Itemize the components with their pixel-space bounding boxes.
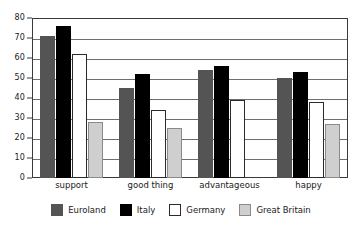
y-tick-label: 0 [20,174,25,182]
bar-chart: 01020304050607080 supportgood thingadvan… [0,0,362,228]
y-axis: 01020304050607080 [0,18,32,178]
bar-italy [135,74,150,178]
legend-label: Italy [137,206,155,215]
bar-italy [293,72,308,178]
legend-swatch-icon [120,204,132,216]
y-tick-label: 30 [14,114,25,122]
y-tick-label: 80 [14,14,25,22]
legend-item: Italy [120,204,155,216]
legend-label: Germany [186,206,225,215]
x-tick-label: good thing [128,180,174,190]
bar-euroland [198,70,213,178]
bar-germany [151,110,166,178]
legend-item: Euroland [51,204,106,216]
legend-label: Euroland [68,206,106,215]
legend: EurolandItalyGermanyGreat Britain [0,200,362,220]
legend-item: Germany [169,204,225,216]
bar-group [190,18,269,178]
bar-germany [72,54,87,178]
y-tick-label: 50 [14,74,25,82]
bar-germany [309,102,324,178]
bar-italy [214,66,229,178]
bar-great-britain [325,124,340,178]
bar-euroland [119,88,134,178]
bar-italy [56,26,71,178]
x-tick-label: happy [295,180,321,190]
y-tick-label: 70 [14,34,25,42]
x-axis: supportgood thingadvantageoushappy [32,180,348,194]
bar-euroland [277,78,292,178]
legend-label: Great Britain [256,206,310,215]
legend-swatch-icon [51,204,63,216]
y-tick-label: 60 [14,54,25,62]
y-tick-label: 20 [14,134,25,142]
bar-group [269,18,348,178]
bar-group [111,18,190,178]
bar-group [32,18,111,178]
legend-swatch-icon [169,204,181,216]
bar-euroland [40,36,55,178]
bar-great-britain [88,122,103,178]
y-tick-label: 10 [14,154,25,162]
bars-layer [32,18,348,178]
y-tick-label: 40 [14,94,25,102]
x-tick-label: support [55,180,88,190]
bar-germany [230,100,245,178]
x-tick-label: advantageous [199,180,259,190]
legend-swatch-icon [239,204,251,216]
bar-great-britain [167,128,182,178]
legend-item: Great Britain [239,204,310,216]
